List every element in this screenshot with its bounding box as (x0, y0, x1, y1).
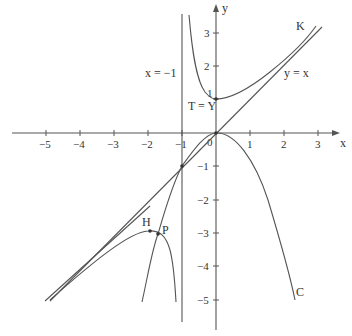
point-origin (214, 131, 218, 135)
point-t-label: T = Y (188, 99, 216, 113)
point-p (156, 232, 160, 236)
diagonal-label: y = x (284, 66, 309, 80)
y-axis-label: y (222, 1, 228, 15)
y-tick-label: −5 (197, 294, 209, 306)
x-tick-label: −1 (175, 138, 187, 150)
x-tick-label: −5 (39, 138, 51, 150)
x-tick-label: −2 (141, 138, 153, 150)
x-axis-label: x (340, 136, 346, 150)
curve-k-label: K (296, 19, 305, 33)
x-tick-label: 2 (281, 138, 287, 150)
x-tick-label: −3 (107, 138, 119, 150)
y-tick-label: 3 (204, 27, 210, 39)
y-tick-label: −3 (197, 227, 209, 239)
curve-c-right (182, 133, 295, 300)
function-graph: −5 −4 −3 −2 −1 1 2 3 0 x y 3 2 1 −1 −2 −… (0, 0, 352, 336)
point-intersection (180, 164, 184, 168)
curve-c-left-tail (45, 206, 150, 301)
y-axis-arrow-icon (213, 4, 219, 12)
y-tick-label: −2 (197, 194, 209, 206)
x-axis-arrow-icon (332, 130, 340, 136)
y-tick-label: −4 (197, 260, 209, 272)
point-h (148, 229, 152, 233)
asymptote-label: x = −1 (145, 66, 177, 80)
x-tick-label: −4 (73, 138, 85, 150)
point-h-label: H (142, 215, 151, 229)
y-tick-label: 2 (204, 60, 210, 72)
curve-c-label: C (296, 285, 304, 299)
curve-c-left (50, 231, 176, 302)
y-tick-label: −1 (197, 160, 209, 172)
x-tick-label: 1 (247, 138, 253, 150)
x-tick-label: 3 (315, 138, 321, 150)
point-p-label: P (162, 223, 169, 237)
